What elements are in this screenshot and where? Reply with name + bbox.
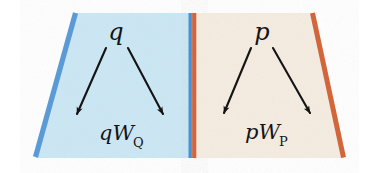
right-panel-bottom-label-base: pW — [245, 120, 282, 144]
left-panel-bottom-label-base: qW — [99, 121, 136, 145]
right-panel-bottom-label-subscript: P — [279, 134, 288, 149]
diagram-svg: q qW Q p pW P — [0, 0, 370, 173]
center-divider — [190, 13, 194, 158]
left-panel-bottom-label-subscript: Q — [133, 135, 144, 150]
diagram-canvas: q qW Q p pW P — [0, 0, 370, 173]
left-panel-top-label: q — [108, 18, 123, 46]
right-panel-top-label: p — [254, 18, 269, 46]
